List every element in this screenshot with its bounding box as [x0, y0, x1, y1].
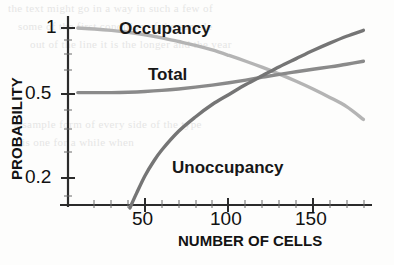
x-axis-title: NUMBER OF CELLS: [178, 232, 322, 249]
y-tick-label-1: 1: [46, 16, 57, 38]
data-series-layer: [78, 28, 364, 208]
plot-canvas: [0, 0, 394, 265]
chart-figure: the text might go in a way in such a few…: [0, 0, 394, 265]
y-tick-label-0-5: 0.5: [25, 82, 51, 104]
series-line-total: [78, 61, 364, 92]
x-tick-label-100: 100: [210, 208, 242, 230]
series-line-occupancy: [78, 28, 364, 119]
x-tick-label-50: 50: [132, 208, 153, 230]
curve-label-occupancy: Occupancy: [119, 19, 211, 39]
series-line-unoccupancy: [130, 30, 364, 208]
x-tick-label-150: 150: [295, 208, 327, 230]
y-tick-label-0-2: 0.2: [25, 166, 51, 188]
y-axis-title: PROBABILITY: [8, 77, 25, 180]
curve-label-total: Total: [148, 65, 187, 85]
curve-label-unoccupancy: Unoccupancy: [172, 158, 283, 178]
